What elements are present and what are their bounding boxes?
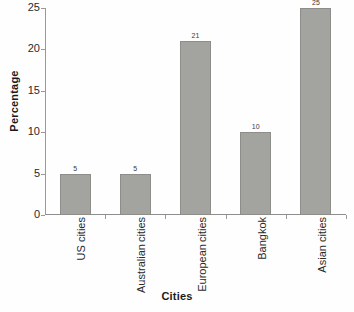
x-tick-label-slot: US cities <box>45 217 105 289</box>
y-tick-label: 25 <box>18 2 40 13</box>
y-tick-label: 10 <box>18 126 40 137</box>
y-tick-label: 0 <box>18 209 40 220</box>
y-tick-label: 5 <box>18 168 40 179</box>
x-tick-label-line: cities <box>196 217 208 242</box>
x-tick-label: Asian cities <box>316 217 328 273</box>
x-tick-label-slot: Bangkok <box>226 217 286 289</box>
x-axis-tick-labels: US citiesAustraliancitiesEuropeancitiesB… <box>45 217 346 289</box>
x-tick-label-slot: Europeancities <box>166 217 226 289</box>
x-tick-label-slot: Australiancities <box>105 217 165 289</box>
bars-layer: 55211025 <box>45 8 346 215</box>
x-tick-label-slot: Asian cities <box>286 217 346 289</box>
y-tick-mark <box>41 8 45 9</box>
x-tick-label-line: Australian <box>135 244 147 293</box>
bar-chart: Percentage 0510152025 55211025 US cities… <box>0 0 354 312</box>
bar[interactable] <box>120 174 151 215</box>
bar[interactable] <box>240 132 271 215</box>
x-tick-label: Bangkok <box>256 217 268 260</box>
y-tick-mark <box>41 49 45 50</box>
y-tick-mark <box>41 215 45 216</box>
bar[interactable] <box>60 174 91 215</box>
x-tick-label-line: Bangkok <box>256 217 268 260</box>
bar-value-label: 21 <box>176 32 216 39</box>
x-tick-label: US cities <box>75 217 87 260</box>
x-tick-label-line: Asian cities <box>316 217 328 273</box>
x-tick-label-line: US cities <box>75 217 87 260</box>
y-tick-mark <box>41 91 45 92</box>
y-tick-label: 20 <box>18 43 40 54</box>
x-tick-mark <box>346 215 347 219</box>
y-tick-mark <box>41 174 45 175</box>
bar[interactable] <box>300 8 331 215</box>
y-tick-mark <box>41 132 45 133</box>
y-axis-tick-labels: 0510152025 <box>18 0 40 215</box>
plot-area: 55211025 <box>45 8 346 215</box>
bar-value-label: 5 <box>115 165 155 172</box>
x-tick-label: Australiancities <box>135 217 147 293</box>
bar[interactable] <box>180 41 211 215</box>
x-tick-label: Europeancities <box>196 217 208 292</box>
bar-value-label: 5 <box>55 165 95 172</box>
x-tick-label-line: cities <box>135 217 147 242</box>
x-axis-title: Cities <box>0 290 354 302</box>
y-tick-label: 15 <box>18 85 40 96</box>
bar-value-label: 25 <box>296 0 336 6</box>
bar-value-label: 10 <box>236 123 276 130</box>
x-tick-label-line: European <box>196 244 208 292</box>
